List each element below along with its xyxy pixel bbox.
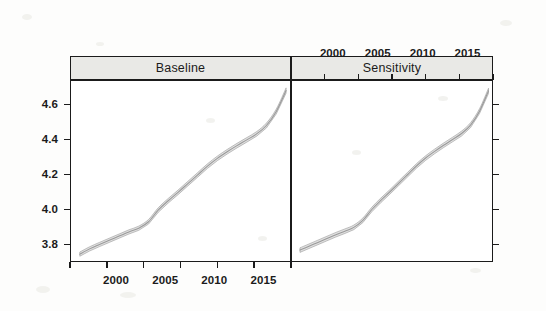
curve-group-sensitivity bbox=[300, 88, 489, 252]
scan-speck bbox=[258, 236, 267, 241]
curve-group-baseline bbox=[80, 88, 286, 256]
scan-speck bbox=[470, 268, 481, 273]
data-curves-layer bbox=[0, 0, 546, 311]
scan-speck bbox=[352, 150, 361, 155]
scan-speck bbox=[96, 42, 104, 46]
figure-canvas: Baseline Sensitivity 20002005201020153.8… bbox=[0, 0, 546, 311]
scan-speck bbox=[438, 96, 448, 101]
scan-speck bbox=[22, 14, 32, 20]
fitted-line-sensitivity bbox=[300, 91, 489, 250]
scan-speck bbox=[206, 118, 215, 123]
scan-speck bbox=[36, 286, 50, 293]
fitted-line-baseline bbox=[80, 91, 286, 255]
confidence-band-baseline bbox=[80, 88, 286, 256]
scan-speck bbox=[500, 20, 512, 26]
scan-speck bbox=[120, 292, 136, 298]
confidence-band-sensitivity bbox=[300, 88, 489, 252]
